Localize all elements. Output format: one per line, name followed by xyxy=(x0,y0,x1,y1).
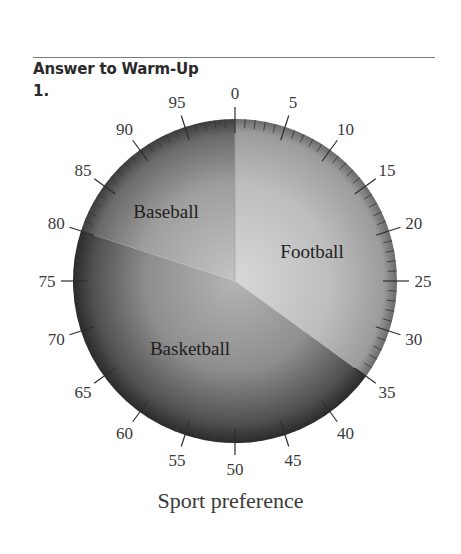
slice-label-basketball: Basketball xyxy=(150,338,230,359)
dial-label: 25 xyxy=(415,272,432,291)
dial-label: 30 xyxy=(405,330,422,349)
dial-label: 15 xyxy=(379,161,396,180)
dial-label: 70 xyxy=(48,330,65,349)
dial-label: 5 xyxy=(289,93,298,112)
chart-caption: Sport preference xyxy=(0,488,461,514)
dial-label: 50 xyxy=(227,460,244,479)
dial-label: 95 xyxy=(168,93,185,112)
dial-label: 85 xyxy=(74,161,91,180)
dial-label: 80 xyxy=(48,214,65,233)
dial-label: 10 xyxy=(337,120,354,139)
dial-label: 60 xyxy=(116,424,133,443)
slice-label-football: Football xyxy=(280,241,343,262)
dial-label: 90 xyxy=(116,120,133,139)
pie-chart: 05101520253035404550556065707580859095 F… xyxy=(0,0,461,554)
pie-slices xyxy=(73,119,397,443)
dial-label: 75 xyxy=(39,272,56,291)
dial-label: 40 xyxy=(337,424,354,443)
dial-label: 35 xyxy=(379,383,396,402)
dial-label: 45 xyxy=(285,451,302,470)
dial-label: 20 xyxy=(405,214,422,233)
dial-label: 0 xyxy=(231,84,240,103)
slice-label-baseball: Baseball xyxy=(133,201,198,222)
dial-label: 55 xyxy=(168,451,185,470)
dial-label: 65 xyxy=(74,383,91,402)
